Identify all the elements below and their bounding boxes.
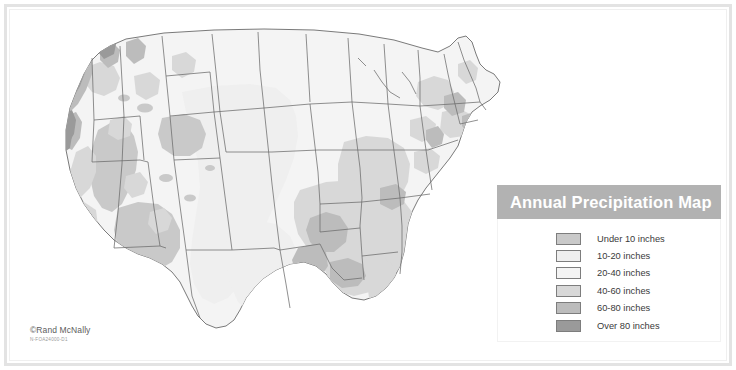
legend-swatch-60-80 <box>556 302 581 314</box>
map-legend: Annual Precipitation Map Under 10 inches… <box>497 185 721 342</box>
legend-swatch-20-40 <box>556 267 581 279</box>
legend-label: 20-40 inches <box>597 268 650 278</box>
map-page: ©Rand McNally N-FOA24000-D1 Annual Preci… <box>0 0 736 370</box>
legend-item[interactable]: 60-80 inches <box>498 300 720 317</box>
legend-title-text: Annual Precipitation Map <box>510 193 712 212</box>
legend-swatch-over-80 <box>556 320 581 332</box>
legend-item[interactable]: 40-60 inches <box>498 282 720 299</box>
map-svg <box>14 12 526 358</box>
product-code-line: N-FOA24000-D1 <box>30 337 90 342</box>
legend-swatch-40-60 <box>556 285 581 297</box>
legend-item[interactable]: 20-40 inches <box>498 265 720 282</box>
legend-label: Over 80 inches <box>597 321 660 331</box>
legend-item[interactable]: 10-20 inches <box>498 247 720 264</box>
legend-swatch-under-10 <box>556 233 581 245</box>
credit-block: ©Rand McNally N-FOA24000-D1 <box>30 326 90 342</box>
legend-label: 40-60 inches <box>597 286 650 296</box>
copyright-line: ©Rand McNally <box>30 326 90 336</box>
legend-title-bar: Annual Precipitation Map <box>497 185 721 219</box>
us-precipitation-map <box>14 12 526 358</box>
legend-item[interactable]: Under 10 inches <box>498 230 720 247</box>
legend-label: Under 10 inches <box>597 234 665 244</box>
legend-swatch-10-20 <box>556 250 581 262</box>
legend-item[interactable]: Over 80 inches <box>498 317 720 334</box>
legend-label: 10-20 inches <box>597 251 650 261</box>
legend-label: 60-80 inches <box>597 303 650 313</box>
legend-body: Under 10 inches 10-20 inches 20-40 inche… <box>497 219 721 342</box>
